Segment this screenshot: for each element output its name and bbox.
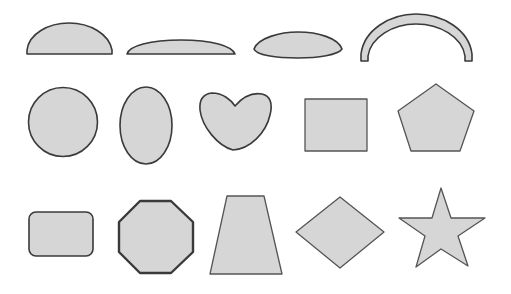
trapezoid-shape	[210, 196, 282, 274]
octagon-shape	[119, 201, 193, 273]
rounded-rectangle-shape	[29, 212, 93, 256]
half-dome-shape	[27, 23, 112, 54]
shapes-svg	[0, 0, 511, 294]
flat-dome-shape	[127, 40, 235, 54]
lens-shape	[254, 32, 342, 58]
oval-shape	[120, 87, 172, 164]
circle-shape	[29, 88, 98, 157]
diamond-shape	[296, 197, 384, 268]
star-shape	[399, 188, 485, 267]
rectangle-shape	[305, 99, 367, 151]
shapes-canvas: Grid of 14 filled 2D geometric shapes ar…	[0, 0, 511, 294]
pentagon-shape	[398, 84, 474, 151]
arch-shape	[361, 14, 472, 61]
heart-shape	[200, 93, 271, 150]
